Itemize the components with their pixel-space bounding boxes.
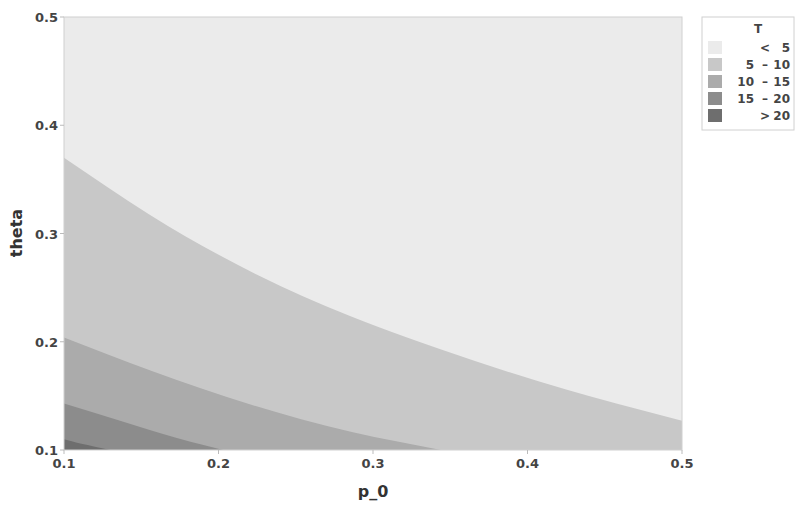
legend-high: 20 bbox=[773, 92, 790, 106]
x-tick-label: 0.1 bbox=[52, 456, 75, 471]
legend-sep: > bbox=[760, 109, 770, 123]
y-tick-label: 0.1 bbox=[35, 443, 58, 458]
legend-high: 5 bbox=[782, 41, 790, 55]
y-tick-label: 0.3 bbox=[35, 227, 58, 242]
legend-swatch bbox=[708, 41, 722, 54]
legend-sep: – bbox=[762, 58, 768, 72]
legend-swatch bbox=[708, 75, 722, 88]
legend-item: 10–15 bbox=[708, 75, 790, 89]
legend-sep: – bbox=[762, 92, 768, 106]
legend-item: 15–20 bbox=[708, 92, 790, 106]
legend-swatch bbox=[708, 58, 722, 71]
legend-high: 15 bbox=[773, 75, 790, 89]
legend-high: 10 bbox=[773, 58, 790, 72]
legend-sep: – bbox=[762, 75, 768, 89]
x-tick-label: 0.2 bbox=[207, 456, 230, 471]
legend-low: 10 bbox=[737, 75, 754, 89]
y-tick-label: 0.4 bbox=[35, 118, 58, 133]
legend-high: 20 bbox=[773, 109, 790, 123]
legend-swatch bbox=[708, 109, 722, 122]
y-tick-label: 0.2 bbox=[35, 335, 58, 350]
y-axis: 0.10.20.30.40.5 bbox=[35, 10, 64, 458]
plot-area bbox=[64, 17, 682, 450]
legend-swatch bbox=[708, 92, 722, 105]
y-axis-title: theta bbox=[7, 209, 26, 257]
x-axis-title: p_0 bbox=[358, 482, 389, 501]
y-tick-label: 0.5 bbox=[35, 10, 58, 25]
legend-item: 5–10 bbox=[708, 58, 790, 72]
legend-sep: < bbox=[760, 41, 770, 55]
x-tick-label: 0.4 bbox=[516, 456, 539, 471]
legend-low: 15 bbox=[737, 92, 754, 106]
x-tick-label: 0.5 bbox=[670, 456, 693, 471]
legend: T <55–1010–1515–20>20 bbox=[702, 17, 794, 130]
legend-low: 5 bbox=[746, 58, 754, 72]
legend-title: T bbox=[754, 22, 763, 36]
x-tick-label: 0.3 bbox=[361, 456, 384, 471]
x-axis: 0.10.20.30.40.5 bbox=[52, 450, 693, 471]
contour-chart: 0.10.20.30.40.5 0.10.20.30.40.5 p_0 thet… bbox=[0, 0, 804, 507]
